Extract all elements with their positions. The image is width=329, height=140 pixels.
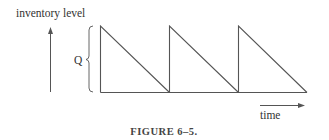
inventory-cycle-2 [170,26,239,93]
x-axis-label: time [260,109,280,121]
y-axis-label: inventory level [16,7,85,20]
figure-caption: FIGURE 6–5. [130,126,197,137]
y-axis-arrow-icon [48,27,53,92]
inventory-cycle-3 [239,26,308,93]
x-axis-arrow-icon [260,103,305,108]
inventory-sawtooth-figure: inventory level Q time FIGURE 6–5. [0,0,329,140]
brace-icon [86,26,93,92]
quantity-label: Q [74,54,83,66]
inventory-cycle-1 [101,26,170,93]
sawtooth-chart [101,26,308,93]
